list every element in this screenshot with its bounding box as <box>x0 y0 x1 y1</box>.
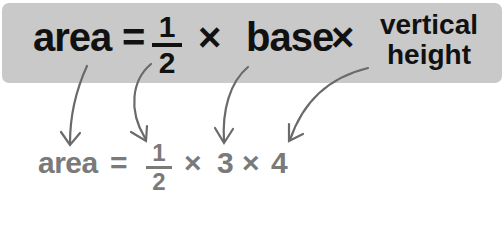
example-times-1: × <box>184 146 202 180</box>
arrow-base-icon <box>224 67 248 142</box>
example-height-value: 4 <box>271 146 288 180</box>
example-denominator: 2 <box>146 171 172 193</box>
example-times-2: × <box>242 146 260 180</box>
example-numerator: 1 <box>146 142 172 164</box>
example-base-value: 3 <box>217 146 234 180</box>
example-equals: = <box>110 146 128 180</box>
arrow-half-icon <box>134 64 151 138</box>
example-area-label: area <box>38 146 98 180</box>
arrow-area-icon <box>70 66 87 143</box>
arrow-height-icon <box>290 68 368 140</box>
example-fraction-half: 1 2 <box>146 142 172 193</box>
